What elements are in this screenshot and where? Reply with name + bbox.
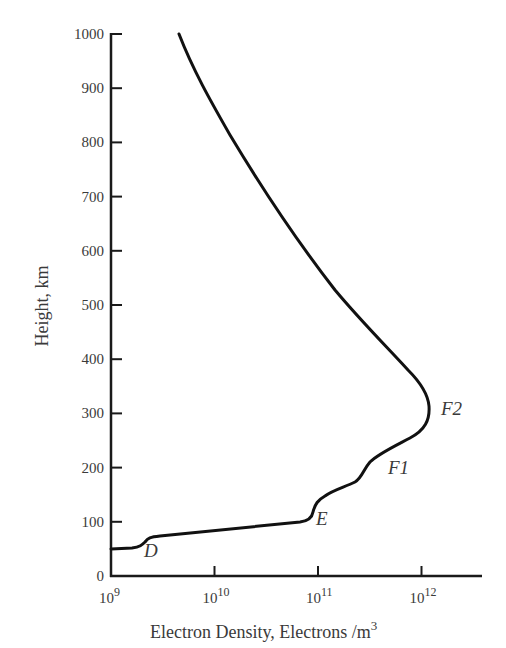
y-tick-label: 400 (82, 351, 105, 367)
layer-label-f2: F2 (440, 398, 463, 419)
y-tick-label: 800 (82, 134, 105, 150)
x-tick-label: 109 (99, 585, 120, 606)
electron-density-curve (111, 34, 429, 549)
layer-label-e: E (315, 508, 328, 529)
y-tick-label: 200 (82, 460, 105, 476)
x-tick-label: 1010 (203, 585, 230, 606)
x-axis-title: Electron Density, Electrons /m3 (150, 618, 377, 642)
y-tick-label: 600 (82, 243, 105, 259)
y-tick-label: 500 (82, 297, 105, 313)
x-tick-label: 1012 (410, 585, 437, 606)
y-tick-label: 100 (82, 514, 105, 530)
y-tick-label: 700 (82, 189, 105, 205)
y-axis-ticks: 01002003004005006007008009001000 (74, 26, 122, 584)
x-axis-ticks: 109101010111012 (99, 566, 437, 606)
x-tick-label: 1011 (306, 585, 333, 606)
y-tick-label: 0 (97, 568, 105, 584)
y-tick-label: 900 (82, 80, 105, 96)
layer-label-d: D (143, 540, 158, 561)
y-tick-label: 1000 (74, 26, 104, 42)
y-axis-title: Height, km (32, 266, 52, 347)
y-tick-label: 300 (82, 405, 105, 421)
electron-density-chart: 01002003004005006007008009001000 1091010… (0, 0, 506, 648)
x-axis-title-superscript: 3 (371, 618, 378, 633)
x-axis-title-text: Electron Density, Electrons /m (150, 622, 371, 642)
layer-label-f1: F1 (387, 457, 409, 478)
